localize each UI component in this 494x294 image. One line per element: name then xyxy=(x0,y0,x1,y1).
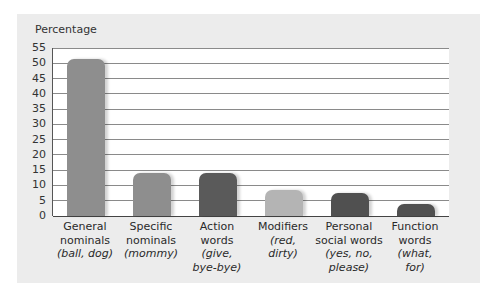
y-tick-label: 20 xyxy=(18,148,46,161)
y-tick-label: 15 xyxy=(18,163,46,176)
y-tick-label: 45 xyxy=(18,72,46,85)
gridline xyxy=(53,185,449,186)
plot-area xyxy=(52,48,449,216)
gridline xyxy=(53,63,449,64)
y-axis-title: Percentage xyxy=(35,23,97,36)
gridline xyxy=(53,139,449,140)
bar xyxy=(133,173,171,216)
gridline xyxy=(53,109,449,110)
bar xyxy=(67,59,105,216)
gridline xyxy=(53,200,449,201)
bar xyxy=(265,190,303,216)
y-tick-label: 55 xyxy=(18,41,46,54)
x-tick-label: Functionwords(what,for) xyxy=(370,220,460,274)
y-tick-label: 30 xyxy=(18,117,46,130)
bar xyxy=(331,193,369,216)
gridline xyxy=(53,48,449,49)
y-tick-label: 10 xyxy=(18,178,46,191)
gridline xyxy=(53,154,449,155)
gridline xyxy=(53,170,449,171)
gridline xyxy=(53,124,449,125)
gridline xyxy=(53,93,449,94)
y-tick-label: 25 xyxy=(18,133,46,146)
y-tick-label: 5 xyxy=(18,194,46,207)
y-tick-label: 50 xyxy=(18,56,46,69)
y-tick-label: 35 xyxy=(18,102,46,115)
bar xyxy=(397,204,435,216)
bar xyxy=(199,173,237,216)
y-tick-label: 40 xyxy=(18,87,46,100)
gridline xyxy=(53,216,449,217)
gridline xyxy=(53,78,449,79)
